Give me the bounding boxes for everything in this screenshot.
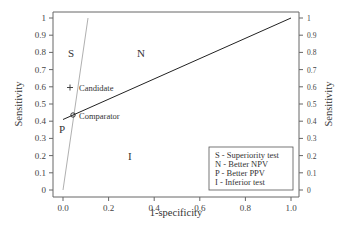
x-tick-label: 1.0 — [285, 203, 297, 213]
region-p-label: P — [59, 123, 65, 135]
y-tick-label-right: 0.8 — [307, 48, 317, 57]
y-tick-label-right: 0.5 — [307, 100, 317, 109]
y-tick-label: 0.1 — [35, 168, 46, 178]
y-tick-label-right: 0.9 — [307, 31, 317, 40]
y-tick-label-right: 0.3 — [307, 134, 317, 143]
y-tick-label: 0.4 — [35, 116, 47, 126]
candidate-point — [67, 85, 73, 91]
y-tick-label-right: 0.2 — [307, 152, 317, 161]
x-axis-label: 1-specificity — [150, 207, 203, 218]
candidate-label: Candidate — [79, 83, 114, 93]
y-tick-label-right: 0.7 — [307, 66, 317, 75]
y-tick-label: 0.2 — [35, 151, 46, 161]
y-axis-left: 00.10.20.30.40.50.60.70.80.91 — [35, 13, 53, 195]
x-tick-label: 0.0 — [57, 203, 69, 213]
y-tick-label-right: 1 — [307, 14, 311, 23]
y-tick-label: 0.5 — [35, 99, 47, 109]
grey-line — [63, 18, 88, 190]
y-axis-right: 00.10.20.30.40.50.60.70.80.91 — [299, 14, 317, 195]
y-tick-label: 0.3 — [35, 133, 47, 143]
y-axis-label-left: Sensitivity — [13, 81, 24, 127]
x-tick-label: 0.2 — [103, 203, 114, 213]
black-line — [63, 18, 291, 120]
legend-entry-i: I - Inferior test — [215, 177, 265, 187]
y-tick-label-right: 0.1 — [307, 169, 317, 178]
y-axis-label-right: Sensitivity — [323, 81, 334, 127]
y-tick-label: 0.9 — [35, 30, 47, 40]
legend: S - Superiority test N - Better NPV P - … — [209, 147, 293, 190]
y-tick-label: 0 — [42, 185, 47, 195]
roc-chart: 00.10.20.30.40.50.60.70.80.91 00.10.20.3… — [0, 0, 348, 246]
y-tick-label: 0.6 — [35, 82, 47, 92]
region-i-label: I — [128, 150, 132, 162]
x-tick-label: 0.8 — [240, 203, 252, 213]
comparator-label: Comparator — [79, 111, 120, 121]
region-n-label: N — [137, 47, 145, 59]
y-tick-label-right: 0.4 — [307, 117, 317, 126]
y-tick-label: 0.7 — [35, 65, 47, 75]
y-tick-label: 1 — [42, 13, 47, 23]
y-tick-label: 0.8 — [35, 47, 47, 57]
region-s-label: S — [68, 47, 74, 59]
y-tick-label-right: 0 — [307, 186, 311, 195]
y-tick-label-right: 0.6 — [307, 83, 317, 92]
